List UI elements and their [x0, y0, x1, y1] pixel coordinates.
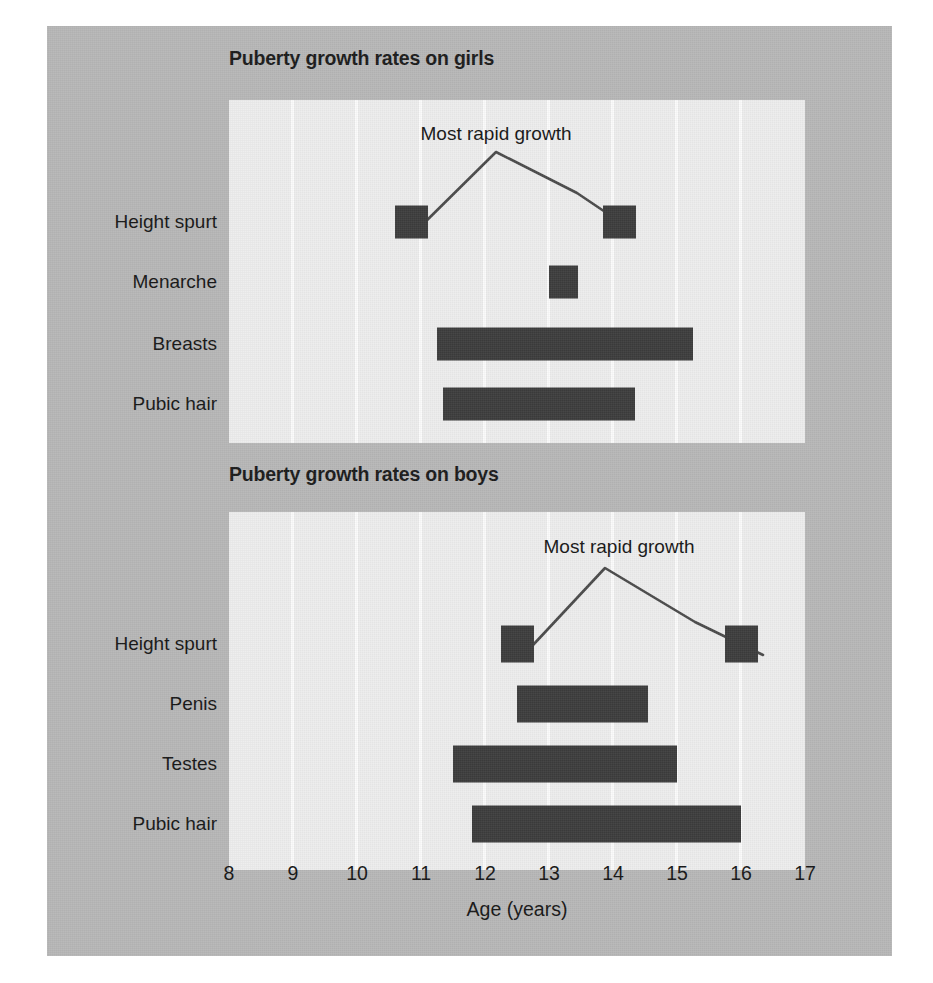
plot-area-girls: Most rapid growth — [229, 100, 805, 443]
bar-girls-menarche — [549, 266, 578, 299]
plot-area-boys: Most rapid growth — [229, 512, 805, 870]
panel-boys: Puberty growth rates on boys Height spur… — [47, 446, 892, 956]
marker-girls-height-spurt-end — [603, 206, 636, 239]
row-label-girls-height-spurt: Height spurt — [47, 211, 217, 233]
row-label-girls-breasts: Breasts — [47, 333, 217, 355]
panel-girls-title: Puberty growth rates on girls — [229, 47, 494, 70]
marker-boys-height-spurt-start — [501, 626, 534, 663]
figure-frame: Puberty growth rates on girls Height spu… — [47, 26, 892, 956]
row-label-girls-pubic-hair: Pubic hair — [47, 393, 217, 415]
bar-girls-breasts — [437, 328, 693, 361]
panel-boys-title: Puberty growth rates on boys — [229, 463, 499, 486]
row-label-boys-penis: Penis — [47, 693, 217, 715]
bar-boys-pubic-hair — [472, 806, 741, 843]
marker-girls-height-spurt-start — [395, 206, 428, 239]
row-label-boys-testes: Testes — [47, 753, 217, 775]
puberty-growth-figure: Puberty growth rates on girls Height spu… — [0, 0, 933, 983]
bar-boys-penis — [517, 686, 648, 723]
marker-boys-height-spurt-end — [725, 626, 758, 663]
bar-girls-pubic-hair — [443, 388, 635, 421]
row-label-boys-height-spurt: Height spurt — [47, 633, 217, 655]
bar-boys-testes — [453, 746, 677, 783]
row-label-boys-pubic-hair: Pubic hair — [47, 813, 217, 835]
panel-girls: Puberty growth rates on girls Height spu… — [47, 26, 892, 446]
row-label-girls-menarche: Menarche — [47, 271, 217, 293]
